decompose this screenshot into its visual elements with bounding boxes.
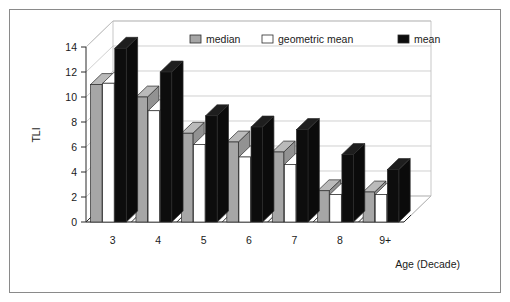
legend-item-geometric-mean: geometric mean — [262, 33, 353, 45]
x-tick-label: 5 — [201, 234, 207, 246]
plot-area: 02468101214 3456789+ mediangeometric mea… — [0, 0, 510, 302]
legend-label: mean — [414, 33, 440, 45]
x-tick-labels: 3456789+ — [110, 234, 391, 246]
legend-item-median: median — [190, 33, 241, 45]
legend-swatch — [262, 35, 273, 43]
legend-label: geometric mean — [278, 33, 353, 45]
x-axis-title: Age (Decade) — [395, 258, 460, 270]
y-axis-title: TLI — [30, 127, 42, 142]
y-tick-label: 0 — [71, 216, 77, 228]
bar-mean-9+ — [387, 159, 410, 222]
legend-swatch — [190, 35, 201, 43]
y-tick-label: 8 — [71, 116, 77, 128]
y-tick-labels: 02468101214 — [65, 41, 77, 228]
bar-mean-8 — [342, 144, 365, 222]
x-tick-label: 3 — [110, 234, 116, 246]
x-tick-label: 7 — [292, 234, 298, 246]
x-tick-label: 6 — [246, 234, 252, 246]
legend-swatch — [398, 35, 409, 43]
bar-chart-svg: 02468101214 3456789+ mediangeometric mea… — [0, 0, 510, 302]
x-tick-label: 8 — [337, 234, 343, 246]
bar-mean-5 — [206, 105, 229, 222]
y-tick-label: 6 — [71, 141, 77, 153]
y-tick-label: 2 — [71, 191, 77, 203]
chart-figure: 02468101214 3456789+ mediangeometric mea… — [0, 0, 510, 302]
bar-group-container — [91, 37, 411, 222]
y-tick-label: 12 — [65, 66, 77, 78]
x-tick-label: 9+ — [379, 234, 391, 246]
bar-mean-6 — [251, 116, 274, 222]
chart-legend: mediangeometric meanmean — [190, 33, 440, 45]
y-tick-label: 4 — [71, 166, 77, 178]
bar-mean-7 — [296, 119, 319, 222]
legend-label: median — [206, 33, 241, 45]
bar-mean-4 — [160, 61, 183, 222]
bar-mean-3 — [115, 37, 138, 222]
legend-item-mean: mean — [398, 33, 440, 45]
x-tick-label: 4 — [155, 234, 161, 246]
y-tick-label: 10 — [65, 91, 77, 103]
y-axis — [81, 47, 86, 222]
y-tick-label: 14 — [65, 41, 77, 53]
